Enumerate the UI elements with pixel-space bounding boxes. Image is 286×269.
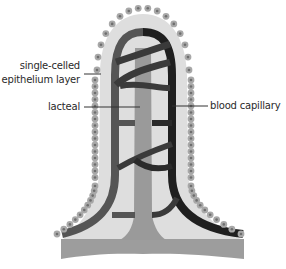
lacteal-label: lacteal bbox=[48, 101, 80, 113]
capillary-cross-3 bbox=[120, 85, 170, 88]
epithelium-label-line1: single-celled bbox=[20, 60, 80, 72]
villus-diagram: single-celled epithelium layer lacteal b… bbox=[0, 0, 286, 269]
villus-base bbox=[61, 239, 244, 259]
blood-capillary-label: blood capillary bbox=[210, 100, 280, 112]
villus-illustration bbox=[0, 0, 286, 269]
epithelium-label-line2: epithelium layer bbox=[2, 74, 80, 86]
